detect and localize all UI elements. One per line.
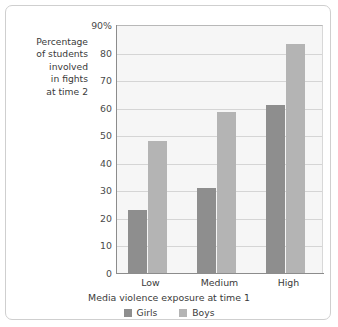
bar-boys-high: [286, 44, 305, 273]
y-tick-label: 60: [78, 102, 112, 113]
bar-group: [254, 26, 323, 273]
x-axis-title: Media violence exposure at time 1: [6, 292, 332, 303]
legend-swatch-icon: [124, 309, 132, 317]
legend-label: Girls: [137, 307, 158, 318]
bar-girls-low: [128, 210, 147, 273]
bar-boys-low: [148, 141, 167, 273]
bar-girls-high: [266, 105, 285, 273]
y-tick-label: 70: [78, 75, 112, 86]
bars-layer: [116, 26, 322, 273]
bar-group: [185, 26, 254, 273]
y-tick-label: 20: [78, 212, 112, 223]
legend-entry-girls: Girls: [124, 307, 158, 318]
legend-entry-boys: Boys: [179, 307, 214, 318]
x-tick-label-high: High: [254, 277, 323, 288]
y-tick-label: 90%: [78, 20, 112, 31]
chart-figure-frame: Percentage of students involved in fight…: [5, 5, 331, 320]
x-tick-label-low: Low: [116, 277, 185, 288]
y-axis-line: [116, 25, 117, 274]
y-axis-tick-labels: 0102030405060708090%: [74, 25, 112, 273]
y-tick-label: 30: [78, 185, 112, 196]
y-tick-label: 0: [78, 268, 112, 279]
y-tick-label: 40: [78, 157, 112, 168]
bar-girls-medium: [197, 188, 216, 273]
chart-legend: GirlsBoys: [6, 307, 332, 318]
bar-boys-medium: [217, 112, 236, 273]
plot-area: [116, 25, 323, 273]
y-tick-label: 10: [78, 240, 112, 251]
y-tick-label: 80: [78, 47, 112, 58]
bar-group: [116, 26, 185, 273]
x-axis-line: [116, 273, 324, 274]
legend-label: Boys: [192, 307, 214, 318]
legend-swatch-icon: [179, 309, 187, 317]
y-tick-label: 50: [78, 130, 112, 141]
x-tick-label-medium: Medium: [185, 277, 254, 288]
